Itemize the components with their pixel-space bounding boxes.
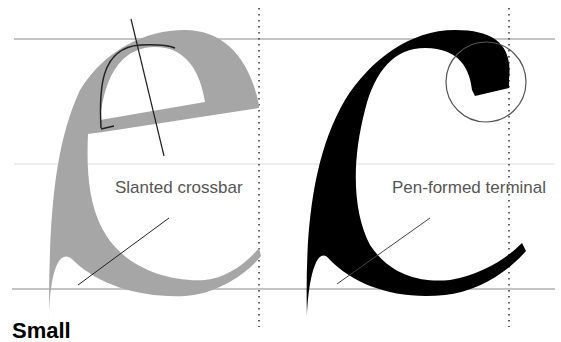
letter-e-glyph: [49, 30, 261, 320]
label-slanted-crossbar: Slanted crossbar: [115, 178, 243, 198]
letter-c-glyph: [307, 30, 526, 320]
label-pen-formed-terminal: Pen-formed terminal: [392, 178, 546, 198]
footer-heading-partial: Small: [12, 318, 71, 342]
